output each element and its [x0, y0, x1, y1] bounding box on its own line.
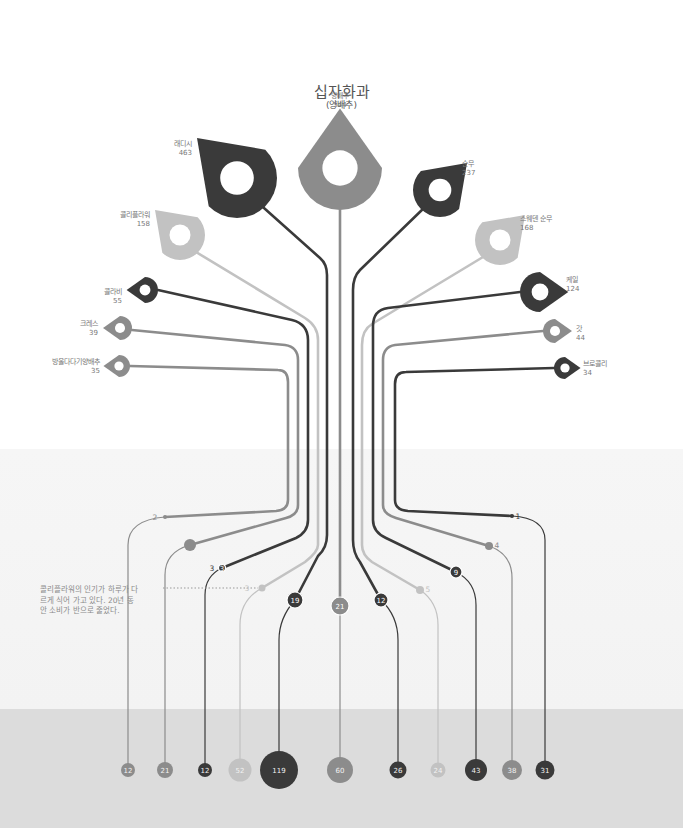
turnip-label: 순무237 — [462, 160, 475, 178]
kohlrabi-bottom-value: 12 — [201, 767, 210, 775]
kohlrabi-lower-branch — [205, 568, 222, 770]
kale-label: 케일124 — [566, 276, 579, 294]
turnip-name: 순무 — [462, 160, 475, 169]
mustard-mid-node — [485, 542, 493, 550]
swede-mid-node — [416, 586, 424, 594]
kohlrabi-name: 콜라비 — [104, 288, 122, 297]
mustard-name: 갓 — [576, 325, 585, 334]
broccoli-value: 34 — [583, 369, 607, 378]
kale-name: 케일 — [566, 276, 579, 285]
cabbage-label: 양배추544 — [310, 92, 370, 110]
mustard-bottom-value: 38 — [508, 767, 517, 775]
brussels-value: 35 — [52, 367, 100, 376]
cress-lower-branch — [165, 545, 190, 770]
cauliflower-note: 콜리플라워의 인기가 하루가 다르게 식어 가고 있다. 20년 동안 소비가 … — [40, 585, 140, 617]
swede-label: 스웨덴 순무168 — [520, 215, 552, 233]
brussels-name: 방울다다기양배추 — [52, 358, 100, 367]
broccoli-upper-branch — [395, 368, 554, 516]
cauliflower-name: 콜리플라워 — [120, 211, 150, 220]
brussels-label: 방울다다기양배추35 — [52, 358, 100, 376]
turnip-bottom-value: 26 — [394, 767, 403, 775]
broccoli-label: 브로콜리34 — [583, 360, 607, 378]
cabbage-value: 544 — [310, 101, 370, 110]
cauliflower-label: 콜리플라워158 — [120, 211, 150, 229]
swede-icon — [490, 230, 511, 251]
brussels-sprout-icon — [114, 361, 123, 370]
cauliflower-bottom-value: 52 — [236, 767, 245, 775]
radish-value: 463 — [174, 149, 192, 158]
cauliflower-icon — [170, 225, 191, 246]
swede-value: 168 — [520, 224, 552, 233]
swede-bottom-value: 24 — [434, 767, 443, 775]
brussels-lower-branch — [128, 517, 165, 770]
radish-name: 래디시 — [174, 140, 192, 149]
radish-mid-value: 19 — [291, 597, 300, 605]
mustard-value: 44 — [576, 334, 585, 343]
kale-lower-branch — [456, 572, 476, 770]
cauliflower-mid-value: 3 — [245, 584, 250, 593]
kohlrabi-upper-branch — [158, 290, 308, 568]
turnip-upper-branch — [353, 207, 425, 600]
kohlrabi-label: 콜라비55 — [104, 288, 122, 306]
broccoli-bottom-value: 31 — [541, 767, 550, 775]
radish-icon — [220, 161, 254, 195]
broccoli-lower-branch — [512, 516, 545, 770]
swede-mid-value: 5 — [426, 585, 431, 594]
cauliflower-lower-branch — [240, 588, 262, 770]
cress-icon — [115, 323, 125, 333]
cabbage-mid-value: 21 — [336, 603, 345, 611]
kale-bottom-value: 43 — [472, 767, 481, 775]
kohlrabi-value: 55 — [104, 297, 122, 306]
swede-name: 스웨덴 순무 — [520, 215, 552, 224]
kale-value: 124 — [566, 285, 579, 294]
broccoli-mid-node — [510, 514, 514, 518]
cress-value: 39 — [80, 329, 98, 338]
kale-icon — [532, 284, 549, 301]
swede-lower-branch — [420, 590, 438, 770]
mustard-mid-value: 4 — [495, 541, 500, 550]
kale-mid-value: 9 — [454, 569, 458, 577]
turnip-value: 237 — [462, 169, 475, 178]
broccoli-name: 브로콜리 — [583, 360, 607, 369]
cress-label: 크레스39 — [80, 320, 98, 338]
cabbage-name: 양배추 — [310, 92, 370, 101]
turnip-mid-value: 12 — [377, 597, 386, 605]
turnip-icon — [429, 179, 452, 202]
brussels-bottom-value: 12 — [124, 767, 133, 775]
kohlrabi-mid-value: 3 — [210, 564, 215, 573]
mustard-icon — [550, 326, 560, 336]
cress-name: 크레스 — [80, 320, 98, 329]
mustard-lower-branch — [489, 546, 512, 770]
cabbage-bottom-value: 60 — [336, 767, 345, 775]
mustard-label: 갓44 — [576, 325, 585, 343]
radish-bottom-value: 119 — [272, 767, 285, 775]
brussels-mid-node — [163, 515, 167, 519]
kohlrabi-mid-value: 3 — [220, 565, 224, 573]
kohlrabi-icon — [140, 285, 151, 296]
cauliflower-mid-node — [259, 585, 266, 592]
brussels-mid-value: 2 — [153, 513, 158, 522]
radish-label: 래디시463 — [174, 140, 192, 158]
cabbage-icon — [322, 150, 357, 185]
vegetable-tree-diagram: 2122133123521911921601226524943438131 — [0, 0, 683, 828]
radish-lower-branch — [279, 600, 295, 770]
cress-mid-node — [184, 539, 196, 551]
cress-bottom-value: 21 — [161, 767, 170, 775]
cauliflower-value: 158 — [120, 220, 150, 229]
turnip-lower-branch — [381, 600, 398, 770]
broccoli-mid-value: 1 — [516, 512, 521, 521]
brussels-upper-branch — [130, 366, 288, 517]
broccoli-icon — [560, 363, 569, 372]
